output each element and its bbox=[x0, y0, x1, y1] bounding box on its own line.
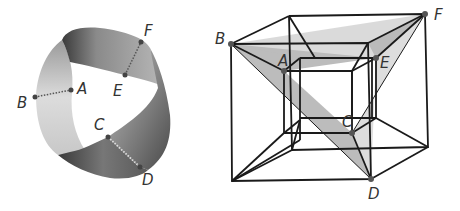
point-d bbox=[138, 165, 143, 170]
label-c: C bbox=[94, 116, 105, 134]
diagram-canvas: A B C D E F bbox=[0, 0, 460, 211]
point-a bbox=[69, 88, 74, 93]
label-a: A bbox=[76, 80, 87, 98]
point-f bbox=[422, 11, 428, 17]
label-f: F bbox=[144, 22, 153, 40]
label-a: A bbox=[277, 52, 288, 70]
label-e: E bbox=[380, 54, 390, 72]
label-e: E bbox=[113, 82, 123, 100]
label-b: B bbox=[17, 94, 27, 112]
point-d bbox=[368, 176, 374, 182]
point-e bbox=[373, 55, 379, 61]
label-d: D bbox=[368, 185, 380, 203]
point-b bbox=[33, 95, 38, 100]
label-c: C bbox=[342, 113, 353, 131]
twisted-band-figure: A B C D E F bbox=[17, 22, 170, 189]
point-b bbox=[228, 41, 234, 47]
label-f: F bbox=[434, 6, 443, 24]
point-c bbox=[106, 135, 111, 140]
point-e bbox=[123, 73, 128, 78]
label-b: B bbox=[215, 30, 225, 48]
point-f bbox=[139, 40, 144, 45]
label-d: D bbox=[142, 171, 154, 189]
hypercube-figure: A B C D E F bbox=[215, 6, 443, 203]
